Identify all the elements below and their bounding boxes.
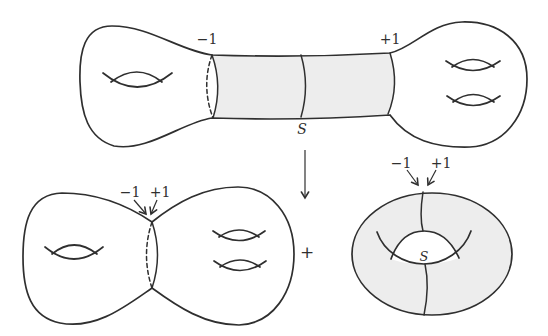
- torus-plus-one-label: +1: [431, 155, 452, 171]
- right-upper-handle-hole: [446, 60, 500, 71]
- plus-operator: +: [300, 242, 314, 262]
- surface-decomposition-diagram: −1 +1 S −1 +1 +: [0, 0, 548, 336]
- torus-minus-one-arrow-icon: [407, 170, 418, 185]
- left-handle-hole: [103, 72, 172, 87]
- pinched-right-lower-handle-hole: [214, 260, 266, 271]
- top-minus-one-label: −1: [197, 31, 218, 47]
- pinched-plus-one-arrow-icon: [151, 200, 157, 214]
- pinched-right-upper-handle-hole: [213, 230, 265, 241]
- top-surface: −1 +1 S: [80, 22, 527, 147]
- top-plus-one-label: +1: [380, 31, 401, 47]
- pinched-surface-outline: [23, 187, 294, 325]
- top-circle-s-label: S: [297, 121, 307, 137]
- torus: −1 +1 S: [352, 155, 512, 315]
- torus-minus-one-label: −1: [391, 155, 412, 171]
- torus-plus-one-arrow-icon: [428, 170, 436, 185]
- waist-circle-front-arc: [152, 222, 158, 288]
- waist-circle-back-arc: [147, 222, 153, 288]
- pinched-plus-one-label: +1: [150, 184, 171, 200]
- right-lower-handle-hole: [447, 95, 500, 106]
- pinched-surface: −1 +1: [23, 184, 294, 325]
- pinched-minus-one-label: −1: [120, 184, 141, 200]
- figure-canvas: −1 +1 S −1 +1 +: [0, 0, 548, 336]
- minus-one-circle-back-arc: [207, 55, 213, 118]
- torus-circle-s-label: S: [420, 249, 429, 264]
- pinched-left-handle-hole: [45, 245, 103, 259]
